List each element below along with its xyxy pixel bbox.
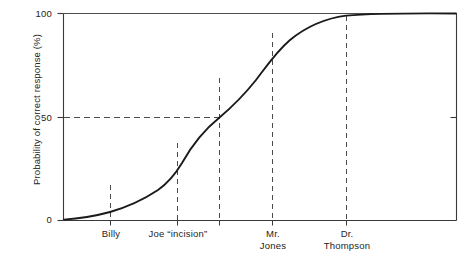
x-tick-label-dr-thompson-line1: Dr.	[341, 228, 354, 239]
chart-plot-area	[0, 0, 466, 253]
x-tick-label-mr-jones: Mr. Jones	[242, 228, 304, 251]
axis-lines	[64, 14, 457, 221]
x-tick-label-joe-incision-line1: Joe “incision”	[149, 228, 208, 239]
x-tick-label-joe-incision: Joe “incision”	[133, 228, 223, 240]
y-tick-label-0: 0	[22, 214, 52, 225]
chart-figure: Probability of correct response (%) 100 …	[0, 0, 466, 253]
x-tick-label-mr-jones-line2: Jones	[242, 240, 304, 252]
y-tick-label-50: 50	[22, 112, 52, 123]
x-tick-label-dr-thompson: Dr. Thompson	[304, 228, 390, 251]
y-tick-label-100: 100	[22, 8, 52, 19]
y-axis-title: Probability of correct response (%)	[31, 10, 42, 210]
x-tick-label-mr-jones-line1: Mr.	[266, 228, 280, 239]
x-axis-ticks	[111, 221, 347, 226]
x-tick-label-billy-line1: Billy	[102, 228, 120, 239]
x-tick-label-dr-thompson-line2: Thompson	[304, 240, 390, 252]
ogive-curve	[64, 13, 456, 219]
